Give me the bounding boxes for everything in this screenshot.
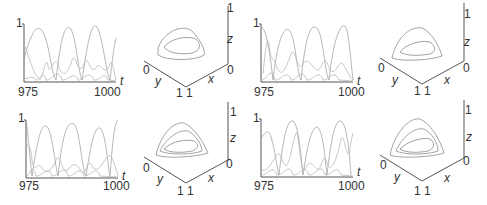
zlabel-bottom-left: z <box>229 131 236 145</box>
ytick-bottom-left: 1 <box>18 111 25 125</box>
ytick-end-bottom-right: 1 <box>414 184 421 198</box>
timeseries-panel-top-right <box>259 24 353 82</box>
xlabel3d-bottom-right: x <box>443 171 451 185</box>
xtick-end-bottom-right: 1000 <box>338 179 365 193</box>
xtick-start-bottom-right: 975 <box>254 179 274 193</box>
xlabel3d-top-right: x <box>443 73 451 87</box>
series-z <box>261 73 353 81</box>
attractor-loop-inner <box>164 37 199 53</box>
attractor-loop-outer <box>158 28 204 59</box>
xtick-end-top-left: 1000 <box>94 85 121 99</box>
ylabel-top-right: y <box>391 73 399 87</box>
timeseries-panel-bottom-left <box>24 120 118 178</box>
xtick-end-top-left: 1 <box>186 86 193 100</box>
ytick-top-left: 1 <box>16 16 23 30</box>
attractor-loop-inner <box>400 41 435 55</box>
series-y <box>24 44 116 80</box>
xtick-end-top-right: 1000 <box>338 85 365 99</box>
xtick-end-bottom-left: 1 <box>187 184 194 198</box>
series-z <box>26 169 118 177</box>
xtick-end-bottom-left: 1000 <box>103 179 130 193</box>
attractor-loop-inner <box>164 140 198 152</box>
xtick-end-top-right: 1 <box>424 84 431 98</box>
xlabel3d-bottom-left: x <box>207 171 215 185</box>
series-x <box>26 120 118 176</box>
ztick-bottom-bottom-right: 0 <box>463 154 470 168</box>
xtick-end-bottom-right: 1 <box>424 184 431 198</box>
series-y <box>26 140 118 176</box>
ytick-start-bottom-right: 0 <box>380 158 387 172</box>
zlabel-top-left: z <box>226 32 233 46</box>
series-x <box>261 26 353 80</box>
phase-panel-top-right <box>380 3 464 84</box>
ztick-top-top-right: 1 <box>464 7 471 21</box>
ztick-bottom-bottom-left: 0 <box>226 157 233 171</box>
figure: 1 975 1000 t 1 z 0 0 y x 1 1 1 975 1000 … <box>0 0 487 205</box>
ztick-top-bottom-left: 1 <box>230 105 237 119</box>
ytick-end-top-right: 1 <box>414 84 421 98</box>
ytick-top-right: 1 <box>253 16 260 30</box>
xlabel3d-top-left: x <box>207 72 215 86</box>
xlabel-bottom-right: t <box>357 165 361 179</box>
series-z <box>261 169 353 176</box>
zlabel-top-right: z <box>463 35 470 49</box>
ztick-top-bottom-right: 1 <box>465 103 472 117</box>
attractor-loop-inner <box>400 138 434 152</box>
ztick-bottom-top-right: 0 <box>463 61 470 75</box>
ytick-start-top-left: 0 <box>143 63 150 77</box>
phase-panel-bottom-left <box>144 102 228 183</box>
series-x <box>24 26 116 80</box>
ytick-end-top-left: 1 <box>176 86 183 100</box>
ytick-start-top-right: 0 <box>378 61 385 75</box>
zlabel-bottom-right: z <box>465 130 472 144</box>
timeseries-panel-bottom-right <box>259 119 353 177</box>
xtick-start-bottom-left: 975 <box>19 179 39 193</box>
ylabel-bottom-left: y <box>156 172 164 186</box>
ylabel-top-left: y <box>154 74 162 88</box>
series-y <box>263 41 353 80</box>
xtick-start-top-right: 975 <box>254 85 274 99</box>
xlabel-top-left: t <box>120 74 124 88</box>
ytick-end-bottom-left: 1 <box>177 184 184 198</box>
ylabel-bottom-right: y <box>393 170 401 184</box>
xtick-start-top-left: 975 <box>18 85 38 99</box>
ztick-bottom-top-left: 0 <box>227 63 234 77</box>
timeseries-panel-top-left <box>22 24 116 82</box>
ztick-top-top-left: 1 <box>227 1 234 15</box>
ytick-bottom-right: 1 <box>253 111 260 125</box>
ytick-start-bottom-left: 0 <box>143 161 150 175</box>
phase-panel-bottom-right <box>380 100 464 181</box>
